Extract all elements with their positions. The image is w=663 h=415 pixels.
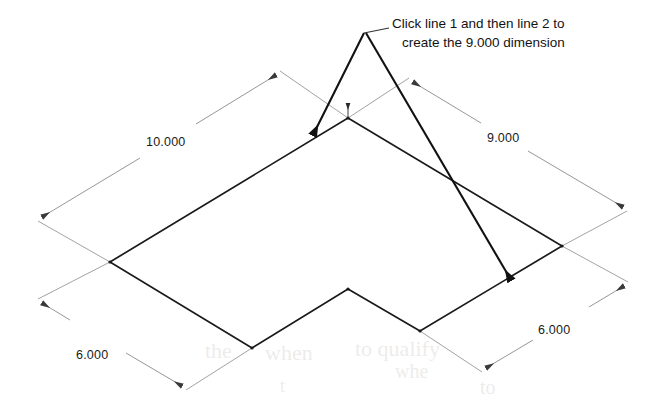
witness-line-9-b bbox=[562, 211, 627, 246]
svg-text:to qualify: to qualify bbox=[355, 336, 440, 361]
instruction-callout-line-2: create the 9.000 dimension bbox=[392, 33, 565, 52]
instruction-callout: Click line 1 and then line 2 to create t… bbox=[392, 14, 565, 52]
dimension-line-10-seg2 bbox=[196, 75, 276, 124]
arrow-to-line-2 bbox=[366, 33, 511, 280]
svg-text:when: when bbox=[265, 340, 313, 365]
callout-arrows bbox=[313, 28, 511, 280]
dimension-line-9-seg2 bbox=[528, 151, 623, 207]
vertex-notch-left bbox=[250, 346, 253, 349]
vertex-notch-right bbox=[418, 329, 421, 332]
part-outline bbox=[108, 116, 563, 349]
dimension-label-10: 10.000 bbox=[146, 135, 185, 149]
witness-line-10-a bbox=[38, 221, 110, 262]
dimension-line-9-seg1 bbox=[413, 82, 481, 123]
dimension-line-10-seg1 bbox=[42, 158, 140, 217]
svg-text:to: to bbox=[480, 376, 496, 398]
vertex-notch-peak bbox=[346, 287, 349, 290]
instruction-callout-line-1: Click line 1 and then line 2 to bbox=[392, 16, 565, 31]
witness-line-10-b bbox=[280, 71, 348, 118]
dimension-line-6l-seg2 bbox=[126, 353, 182, 386]
callout-leader-line bbox=[364, 28, 389, 33]
dimension-line-6r-seg1 bbox=[486, 340, 533, 368]
dimension-label-9: 9.000 bbox=[487, 131, 519, 145]
witness-line-6r-b bbox=[562, 246, 628, 282]
vertex-right bbox=[560, 244, 563, 247]
witness-line-6l-a bbox=[38, 262, 110, 299]
part-outline-path bbox=[110, 118, 562, 348]
dimension-line-6r-seg2 bbox=[589, 286, 624, 307]
drawing-canvas: the when to qualify whe to t bbox=[0, 0, 663, 415]
svg-text:whe: whe bbox=[395, 360, 428, 382]
witness-line-9-a bbox=[348, 78, 409, 118]
dimension-line-6l-seg1 bbox=[42, 303, 70, 320]
svg-text:the: the bbox=[205, 338, 232, 363]
dimension-label-6-right: 6.000 bbox=[538, 323, 570, 337]
svg-text:t: t bbox=[280, 376, 285, 396]
extension-lines bbox=[38, 71, 628, 390]
dimension-label-6-left: 6.000 bbox=[76, 348, 108, 362]
vertex-left bbox=[108, 260, 111, 263]
arrow-to-line-1 bbox=[313, 33, 364, 135]
